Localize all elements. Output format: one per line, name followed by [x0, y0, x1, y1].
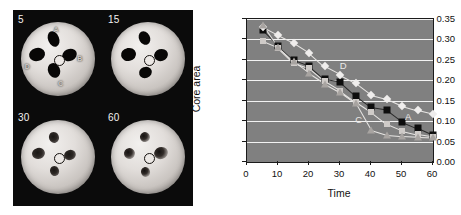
data-point-B — [352, 100, 360, 107]
imaging-montage: ABCD5153060 — [13, 10, 193, 206]
y-tick-mark — [242, 59, 246, 60]
data-point-A — [337, 78, 344, 85]
y-axis-label: Core area — [190, 66, 202, 113]
lesion-region — [137, 29, 153, 47]
lesion-region — [153, 145, 170, 161]
x-tick-mark — [370, 161, 371, 165]
lesion-region — [28, 46, 47, 63]
data-point-B — [383, 132, 391, 139]
plot-area: DCA — [246, 18, 434, 163]
y-tick-mark — [242, 141, 246, 142]
data-point-D — [398, 101, 406, 109]
core-marker — [54, 55, 65, 66]
lesion-region — [137, 65, 153, 80]
gridline — [247, 101, 433, 102]
data-point-B — [336, 89, 344, 96]
lesion-region — [139, 131, 152, 144]
lesion-region — [31, 146, 46, 160]
lesion-region — [152, 47, 169, 63]
y-tick-label: 0.30 — [417, 33, 455, 44]
montage-panel-5: ABCD5 — [13, 10, 103, 108]
y-tick-mark — [242, 100, 246, 101]
lesion-region — [140, 166, 151, 177]
y-tick-mark — [242, 120, 246, 121]
data-point-B — [259, 21, 267, 28]
lesion-region — [123, 147, 136, 160]
y-tick-mark — [242, 79, 246, 80]
gridline — [247, 39, 433, 40]
y-tick-label: 0.10 — [417, 115, 455, 126]
montage-panel-15: 15 — [103, 10, 193, 108]
core-marker — [54, 153, 65, 164]
specimen-disc — [111, 22, 185, 96]
x-tick-label: 10 — [272, 168, 283, 179]
lesion-region — [119, 47, 136, 62]
x-tick-mark — [401, 161, 402, 165]
gridline — [247, 19, 433, 20]
lesion-region — [49, 164, 60, 176]
x-tick-label: 0 — [243, 168, 248, 179]
x-tick-mark — [277, 161, 278, 165]
site-label-B: B — [77, 55, 82, 62]
data-point-B — [305, 70, 313, 77]
y-tick-label: 0.05 — [417, 135, 455, 146]
y-tick-mark — [242, 38, 246, 39]
y-tick-mark — [242, 18, 246, 19]
x-tick-label: 30 — [334, 168, 345, 179]
panel-timepoint-label: 15 — [108, 14, 120, 25]
panel-timepoint-label: 5 — [18, 14, 24, 25]
x-tick-mark — [246, 161, 247, 165]
scientific-figure: ABCD5153060 DCA Core area Time 0.000.050… — [0, 0, 461, 215]
x-tick-label: 20 — [303, 168, 314, 179]
montage-panel-60: 60 — [103, 108, 193, 206]
series-annotation-D: D — [340, 59, 347, 70]
x-tick-label: 50 — [396, 168, 407, 179]
core-marker — [144, 153, 155, 164]
series-annotation-A: A — [405, 111, 411, 122]
y-tick-label: 0.20 — [417, 74, 455, 85]
x-tick-mark — [339, 161, 340, 165]
site-label-C: C — [58, 80, 63, 87]
specimen-disc — [21, 120, 95, 194]
data-point-A — [383, 106, 390, 113]
data-point-B — [290, 58, 298, 65]
specimen-disc — [111, 120, 185, 194]
y-tick-label: 0.00 — [417, 156, 455, 167]
core-area-chart: DCA Core area Time 0.000.050.100.150.200… — [200, 6, 455, 211]
panel-timepoint-label: 30 — [18, 112, 30, 123]
core-marker — [144, 55, 155, 66]
x-tick-label: 60 — [427, 168, 438, 179]
gridline — [247, 142, 433, 143]
y-tick-label: 0.15 — [417, 94, 455, 105]
x-tick-label: 40 — [365, 168, 376, 179]
data-point-C — [260, 38, 266, 44]
data-point-D — [413, 106, 421, 114]
montage-panel-30: 30 — [13, 108, 103, 206]
series-annotation-C: C — [355, 114, 362, 125]
x-tick-mark — [308, 161, 309, 165]
data-point-B — [274, 44, 282, 51]
data-point-B — [398, 133, 406, 140]
data-point-C — [384, 121, 390, 127]
lesion-region — [48, 131, 61, 145]
data-point-D — [320, 62, 328, 70]
data-point-B — [367, 127, 375, 134]
panel-timepoint-label: 60 — [108, 112, 120, 123]
x-axis-label: Time — [328, 187, 351, 199]
data-point-B — [321, 80, 329, 87]
lesion-region — [62, 148, 77, 162]
site-label-D: D — [25, 63, 30, 70]
site-label-A: A — [54, 26, 59, 33]
x-tick-mark — [432, 161, 433, 165]
data-point-C — [368, 109, 374, 115]
y-tick-label: 0.25 — [417, 53, 455, 64]
y-tick-label: 0.35 — [417, 13, 455, 24]
